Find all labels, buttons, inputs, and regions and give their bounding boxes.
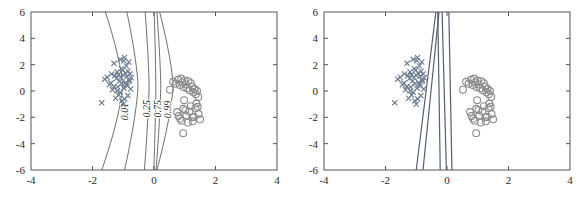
- marker-x: [395, 77, 400, 82]
- plot-left: 0.010.250.750.99-4-2024-6-4-20246: [0, 0, 293, 199]
- marker-o: [473, 130, 480, 137]
- contour-label: 0.99: [162, 101, 173, 119]
- series-class-x: [99, 55, 134, 107]
- y-tick-label: -4: [16, 138, 26, 150]
- series-class-x: [392, 55, 427, 107]
- figure-container: 0.010.250.750.99-4-2024-6-4-20246 -4-202…: [0, 0, 586, 199]
- contour-label: 0.75: [152, 100, 163, 118]
- contour-layer: 0.010.250.750.99: [102, 12, 173, 170]
- contour-label: 0.25: [141, 100, 152, 118]
- line-3: [438, 12, 440, 170]
- y-tick-label: 6: [20, 6, 26, 18]
- contour-line-2: [125, 12, 138, 170]
- y-tick-label: -6: [16, 164, 26, 176]
- x-tick-label: -4: [26, 174, 36, 186]
- y-tick-label: 4: [313, 32, 319, 44]
- plot-right: -4-2024-6-4-20246: [293, 0, 586, 199]
- marker-o: [181, 97, 188, 104]
- contour-line-6: [157, 12, 173, 170]
- contour-line-4: [154, 12, 156, 170]
- contour-line-3: [144, 12, 149, 170]
- panel-left: 0.010.250.750.99-4-2024-6-4-20246: [0, 0, 293, 199]
- y-tick-label: 0: [20, 85, 26, 97]
- marker-o: [474, 97, 481, 104]
- panel-right: -4-2024-6-4-20246: [293, 0, 586, 199]
- x-tick-label: -2: [381, 174, 390, 186]
- x-tick-label: 4: [274, 174, 280, 186]
- marker-x: [102, 77, 107, 82]
- plot-frame: [324, 12, 570, 170]
- x-tick-label: 0: [444, 174, 450, 186]
- marker-x: [127, 71, 132, 76]
- marker-x: [111, 61, 116, 66]
- x-tick-label: -2: [88, 174, 97, 186]
- marker-x: [418, 93, 423, 98]
- x-tick-label: 4: [567, 174, 573, 186]
- marker-x: [392, 100, 397, 105]
- series-class-o: [460, 75, 497, 136]
- marker-x: [420, 71, 425, 76]
- contour-line-5: [156, 12, 161, 170]
- marker-o: [167, 86, 174, 93]
- y-tick-label: 2: [313, 59, 319, 71]
- marker-x: [99, 100, 104, 105]
- x-tick-label: 2: [213, 174, 219, 186]
- marker-x: [404, 61, 409, 66]
- marker-x: [125, 93, 130, 98]
- data-layer: [99, 55, 203, 137]
- x-tick-label: -4: [319, 174, 329, 186]
- y-tick-label: -4: [309, 138, 319, 150]
- marker-o: [180, 130, 187, 137]
- marker-x: [421, 86, 426, 91]
- y-tick-label: 4: [20, 32, 26, 44]
- marker-o: [460, 86, 467, 93]
- y-tick-label: 0: [313, 85, 319, 97]
- y-tick-label: 2: [20, 59, 26, 71]
- y-tick-label: -2: [16, 111, 25, 123]
- x-tick-label: 2: [506, 174, 512, 186]
- y-tick-label: 6: [313, 6, 319, 18]
- line-5: [449, 12, 452, 170]
- x-tick-label: 0: [151, 174, 157, 186]
- marker-x: [128, 86, 133, 91]
- y-tick-label: -6: [309, 164, 319, 176]
- line-4: [442, 12, 446, 170]
- y-tick-label: -2: [309, 111, 318, 123]
- plot-frame: [31, 12, 277, 170]
